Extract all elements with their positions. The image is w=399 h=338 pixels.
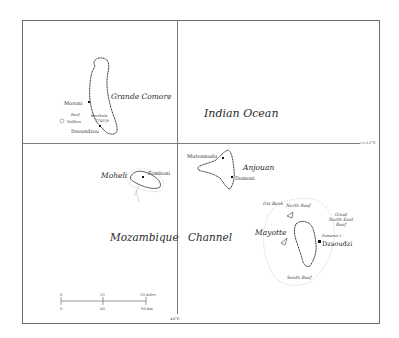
label-channel: Channel [188,231,232,243]
label-mayotte: Mayotte [255,228,286,237]
town-fomboni: Fomboni [148,170,170,176]
scale-miles-50: 50 miles [140,292,156,297]
scale-bar-graphic [61,297,146,305]
scale-miles-0: 0 [60,292,62,297]
town-domoni: Domoni [235,175,255,181]
label-indian-ocean: Indian Ocean [204,107,278,120]
scale-km-0: 0 [60,306,62,311]
fomboni-dot [142,176,144,178]
domoni-dot [231,176,233,178]
scale-km-80: 80 km [141,306,153,311]
label-mozambique: Mozambique [110,231,179,243]
label-south-reef: South Reef [287,275,312,280]
mutsamudu-dot [222,157,224,159]
label-great-ne-reef: Great North-East Reef [326,212,356,227]
moroni-dot [88,101,90,103]
label-moheli: Moheli [101,171,127,180]
label-karthala-height: 7740 ft [95,118,109,123]
label-anjouan: Anjouan [243,163,274,172]
label-north-reef: North Reef [286,203,311,208]
island-outlines [0,0,399,338]
itsoundzou-dot [99,125,101,127]
label-latitude-12s: 12°S [366,140,375,145]
label-longitude-44e: 44°E [170,316,180,321]
scale-km-40: 40 [100,306,105,311]
town-dzaoudzi: Dzaoudzi [322,240,352,248]
label-pamanzi: Pamanzi I [322,233,341,238]
dzaoudzi-dot [318,240,321,243]
mayotte-outline [295,221,317,266]
scale-miles-25: 25 [100,292,105,297]
label-grande-comore: Grande Comore [111,92,171,101]
town-mutsamudu: Mutsamudu [187,153,217,159]
label-reef: Reef [71,112,80,117]
label-vailheu: Vailheu [67,119,81,124]
town-moroni: Moroni [64,100,82,106]
town-itsoundzou: Itsoundzou [71,128,99,134]
label-iris-bank: Iris Bank [263,201,283,206]
